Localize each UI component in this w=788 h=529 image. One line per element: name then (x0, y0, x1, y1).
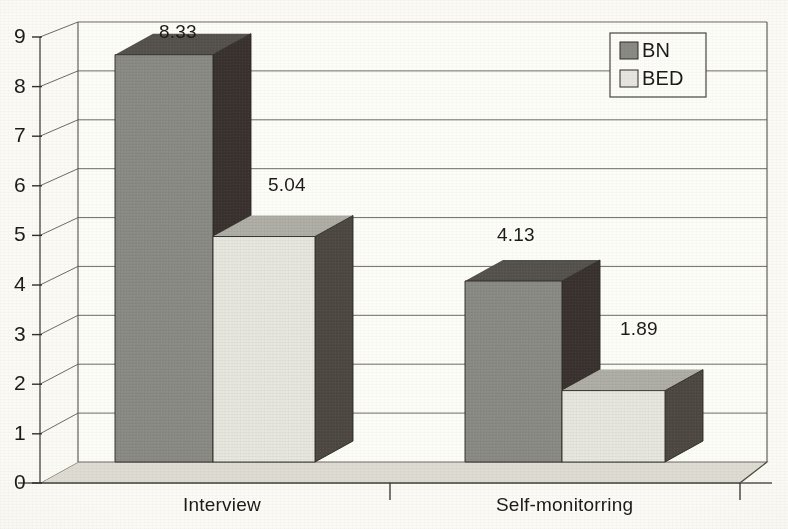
bar-bed-self-monitorring (562, 370, 703, 462)
value-label-bed-interview: 5.04 (268, 174, 306, 196)
legend-label-bed: BED (642, 67, 684, 90)
bar-bed-interview (213, 216, 353, 463)
legend-label-bn: BN (642, 39, 670, 62)
y-tick-label-6: 6 (0, 173, 26, 197)
y-tick-label-3: 3 (0, 322, 26, 346)
floor-plane (40, 462, 767, 483)
y-tick-label-5: 5 (0, 222, 26, 246)
value-label-bn-self-monitorring: 4.13 (497, 224, 535, 246)
value-label-bn-interview: 8.33 (159, 21, 197, 43)
value-label-bed-self-monitorring: 1.89 (620, 318, 658, 340)
y-tick-label-9: 9 (0, 24, 26, 48)
category-label-self-monitorring: Self-monitorring (496, 494, 633, 516)
y-tick-label-0: 0 (0, 470, 26, 494)
left-depth-wall (40, 22, 78, 483)
y-tick-label-1: 1 (0, 421, 26, 445)
y-tick-label-8: 8 (0, 74, 26, 98)
category-label-interview: Interview (183, 494, 261, 516)
y-tick-label-4: 4 (0, 272, 26, 296)
legend-swatch-bn (620, 42, 638, 59)
legend-swatch-bed (620, 70, 638, 87)
y-tick-label-7: 7 (0, 123, 26, 147)
y-tick-label-2: 2 (0, 371, 26, 395)
